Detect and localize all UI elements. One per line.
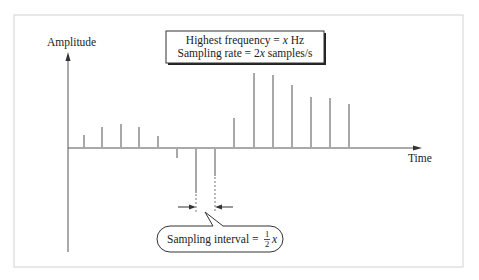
sample-bar [214, 148, 216, 176]
sample-bar [310, 97, 312, 148]
sample-bar [138, 127, 140, 148]
callout-fraction-numerator: 1 [265, 229, 269, 239]
sampling-figure: Amplitude Time Highest [0, 0, 479, 280]
sample-bar [83, 135, 85, 148]
info-box: Highest frequency = x Hz Sampling rate =… [166, 31, 326, 65]
sample-bar [291, 85, 293, 148]
info-line-2: Sampling rate = 2x samples/s [178, 47, 313, 60]
callout-variable: x [271, 233, 278, 245]
callout-text: Sampling interval = [167, 233, 258, 246]
info-line-1: Highest frequency = x Hz [186, 34, 304, 47]
sample-bar [120, 124, 122, 148]
sample-bar [157, 136, 159, 148]
sample-bar [348, 104, 350, 148]
sample-bar [272, 75, 274, 148]
sample-bar [101, 127, 103, 148]
sample-bar [233, 118, 235, 148]
x-axis-label: Time [408, 152, 432, 164]
sample-bar [253, 73, 255, 148]
y-axis-label: Amplitude [47, 36, 96, 49]
sample-bar [176, 148, 178, 158]
sample-bar [195, 148, 197, 193]
callout-fraction-denominator: 2 [265, 239, 269, 249]
sample-bar [329, 98, 331, 148]
